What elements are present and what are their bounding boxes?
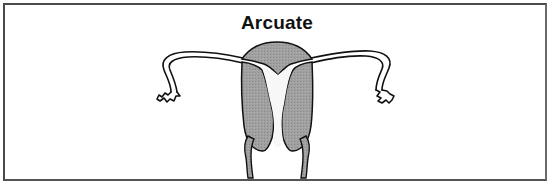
arcuate-uterus-illustration (0, 0, 554, 188)
left-fallopian-tube (157, 52, 243, 102)
right-vaginal-wall (300, 136, 309, 178)
right-fallopian-tube (311, 51, 394, 103)
left-vaginal-wall (245, 136, 254, 178)
